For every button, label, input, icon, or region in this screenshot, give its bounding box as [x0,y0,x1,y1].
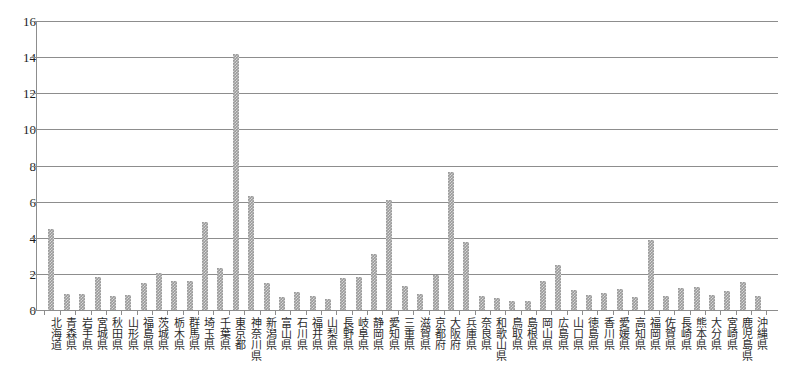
x-axis-label: 大分県 [706,317,721,350]
bar-slot [475,21,490,310]
bar [494,298,500,310]
x-tick-mark [60,310,61,315]
bar-slot [382,21,397,310]
x-tick-mark [521,310,522,315]
x-tick-mark [106,310,107,315]
bar-slot [674,21,689,310]
x-axis-label: 福井県 [307,317,322,350]
x-tick-mark [613,310,614,315]
bar [171,281,177,310]
x-tick-mark [475,310,476,315]
bar-slot [229,21,244,310]
x-axis-label: 山梨県 [322,317,337,350]
x-axis-label: 石川県 [291,317,306,350]
bar-slot [536,21,551,310]
bar [540,281,546,310]
bar-slot [413,21,428,310]
x-axis-label: 宮城県 [92,317,107,350]
bar [79,294,85,310]
x-axis-label: 鳥取県 [506,317,521,350]
bar-series [36,21,778,310]
bar-slot [521,21,536,310]
bar [110,296,116,310]
bar-slot [567,21,582,310]
x-axis-label: 北海道 [45,317,60,350]
x-axis-label: 広島県 [552,317,567,350]
bar-slot [398,21,413,310]
x-tick-mark [659,310,660,315]
bar-slot [275,21,290,310]
bar-slot [44,21,59,310]
bar-slot [60,21,75,310]
bar-slot [75,21,90,310]
bar [202,222,208,311]
bar-slot [551,21,566,310]
bar-slot [91,21,106,310]
bar [417,294,423,310]
y-tick: 12 [0,87,36,100]
x-axis-label: 青森県 [61,317,76,350]
bar-slot [336,21,351,310]
x-tick-mark [229,310,230,315]
x-axis-label: 愛媛県 [614,317,629,350]
bar [755,296,761,310]
x-tick-mark [336,310,337,315]
bar-slot [659,21,674,310]
bar [555,265,561,310]
x-axis-label: 埼玉県 [199,317,214,350]
bar [448,172,454,310]
x-tick-mark [290,310,291,315]
bar-slot [705,21,720,310]
x-axis-label: 沖縄県 [752,317,767,350]
bar-slot [628,21,643,310]
bar-slot [152,21,167,310]
x-axis-labels: 北海道青森県岩手県宮城県秋田県山形県福島県茨城県栃木県群馬県埼玉県千葉県東京都神… [36,317,778,384]
x-tick-mark [260,310,261,315]
x-axis-label: 山口県 [568,317,583,350]
bar [433,275,439,310]
bar [632,297,638,310]
x-tick-mark [121,310,122,315]
bar-slot [490,21,505,310]
x-tick-mark [459,310,460,315]
bar [694,287,700,310]
bar [678,288,684,310]
x-axis-label: 徳島県 [583,317,598,350]
bar-chart: 1614121086420 北海道青森県岩手県宮城県秋田県山形県福島県茨城県栃木… [0,0,785,384]
y-tick: 6 [0,196,36,209]
bar-slot [613,21,628,310]
bar [371,254,377,310]
x-axis-label: 愛知県 [383,317,398,350]
bar [402,286,408,310]
bar [463,242,469,310]
x-axis-label: 秋田県 [107,317,122,350]
x-tick-mark [183,310,184,315]
x-tick-mark [567,310,568,315]
x-axis-label: 岩手県 [76,317,91,350]
bar-slot [137,21,152,310]
x-tick-mark [398,310,399,315]
x-tick-mark [244,310,245,315]
x-tick-mark [720,310,721,315]
x-axis-label: 静岡県 [368,317,383,350]
x-tick-mark [382,310,383,315]
x-axis-label: 長崎県 [675,317,690,350]
x-axis-label: 和歌山県 [491,317,506,361]
bar [217,268,223,310]
bar [325,299,331,310]
bar-slot [167,21,182,310]
bar-slot [505,21,520,310]
y-tick: 4 [0,232,36,245]
bar-slot [429,21,444,310]
bar [48,229,54,310]
x-axis-label: 岡山県 [537,317,552,350]
bar-slot [306,21,321,310]
x-axis-label: 奈良県 [476,317,491,350]
x-tick-mark [582,310,583,315]
x-tick-mark [137,310,138,315]
x-axis-label: 熊本県 [691,317,706,350]
x-tick-mark [766,310,767,315]
bar [279,297,285,310]
x-axis-label: 三重県 [399,317,414,350]
bar-slot [582,21,597,310]
